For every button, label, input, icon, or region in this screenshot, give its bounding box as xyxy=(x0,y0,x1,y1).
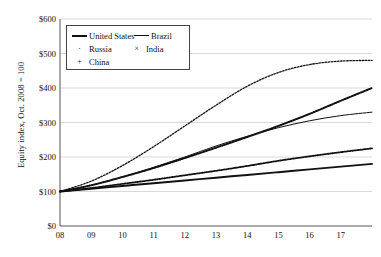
series-line xyxy=(60,88,372,192)
legend-item-india[interactable]: × India xyxy=(128,42,185,55)
legend-item-brazil[interactable]: Brazil xyxy=(133,29,185,42)
legend-label: Russia xyxy=(88,44,112,54)
x-marker-icon: × xyxy=(128,43,145,54)
series-line xyxy=(60,60,372,191)
legend-row: · Russia × India xyxy=(71,42,185,55)
series-line xyxy=(60,148,372,191)
legend-label: India xyxy=(145,44,163,54)
plus-marker-icon: + xyxy=(71,56,88,67)
legend-label: Brazil xyxy=(150,31,172,41)
series-line xyxy=(60,112,372,191)
legend-item-united-states[interactable]: United States xyxy=(71,29,133,42)
legend-spacer xyxy=(128,55,185,68)
legend-row: + China xyxy=(71,55,185,68)
series-lines xyxy=(60,60,372,191)
legend-label: China xyxy=(88,57,109,67)
dot-marker-icon: · xyxy=(71,43,88,54)
solid-thin-line-icon xyxy=(133,30,150,41)
plot-area xyxy=(0,0,381,257)
equity-index-line-chart: Equity index, Oct. 2008 = 100 $0$100$200… xyxy=(0,0,381,257)
legend-item-china[interactable]: + China xyxy=(71,55,128,68)
chart-legend: United States Brazil · Russia × India + … xyxy=(66,25,190,70)
series-line xyxy=(60,164,372,192)
legend-item-russia[interactable]: · Russia xyxy=(71,42,128,55)
solid-thick-line-icon xyxy=(71,30,88,41)
legend-row: United States Brazil xyxy=(71,29,185,42)
legend-label: United States xyxy=(88,31,135,41)
